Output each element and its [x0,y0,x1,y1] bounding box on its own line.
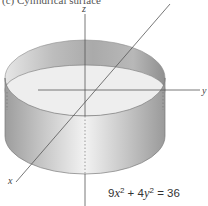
cylinder-diagram: z y x [0,0,208,206]
surface-equation: 9x2 + 4y2 = 36 [108,186,180,201]
z-axis-label: z [81,3,86,14]
x-axis-label: x [7,175,13,186]
y-axis-label: y [201,85,207,96]
